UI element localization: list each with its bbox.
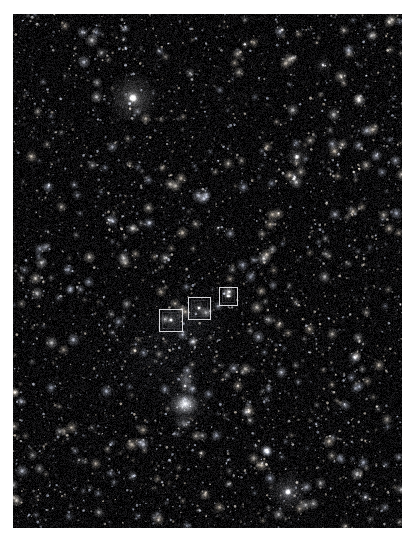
marker-right[interactable] [219, 287, 238, 306]
marker-overlay [13, 14, 402, 528]
marker-left[interactable] [159, 309, 183, 332]
marker-middle[interactable] [188, 297, 211, 320]
sky-image-viewer [0, 0, 417, 543]
sky-photograph [13, 14, 402, 528]
